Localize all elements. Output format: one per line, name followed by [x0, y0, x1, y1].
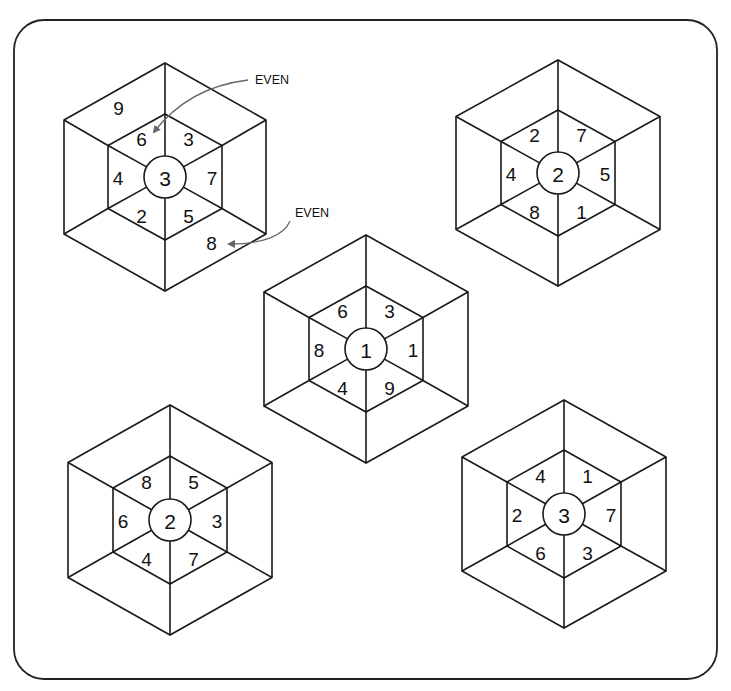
connector-line	[621, 457, 666, 482]
hub-value: 3	[558, 504, 570, 527]
segment-value-top-right: 5	[188, 472, 199, 493]
segment-value-bottom-left: 6	[535, 543, 546, 564]
hub-value: 3	[159, 167, 171, 190]
connector-line	[64, 209, 108, 235]
connector-line	[423, 292, 468, 318]
segment-value-bottom-right: 7	[188, 549, 199, 570]
hub-value: 1	[360, 339, 372, 362]
connector-line	[621, 546, 666, 571]
connector-line	[462, 457, 507, 482]
segment-value-top-left: 2	[529, 125, 540, 146]
segment-value-bottom-left: 4	[141, 549, 152, 570]
hexagon-bottom-left: 2853746	[68, 405, 272, 635]
segment-value-top-right: 7	[576, 125, 587, 146]
hexagon-top-right: 2275184	[456, 60, 660, 286]
segment-value-left: 4	[113, 168, 124, 189]
segment-value-left: 6	[118, 511, 129, 532]
segment-value-right: 5	[600, 164, 611, 185]
connector-line	[423, 381, 468, 407]
outer-value-top-left: 9	[113, 98, 124, 119]
segment-value-top-right: 1	[582, 466, 593, 487]
connector-line	[615, 117, 660, 142]
hub-value: 2	[552, 163, 564, 186]
even-label: EVEN	[295, 206, 329, 220]
segment-value-left: 2	[512, 505, 523, 526]
annotation-group: EVENEVEN	[154, 73, 329, 244]
segment-value-top-left: 6	[136, 129, 147, 150]
hexagon-bottom-right: 3417362	[462, 400, 666, 628]
segment-value-right: 3	[212, 511, 223, 532]
connector-line	[222, 209, 266, 235]
even-label: EVEN	[255, 73, 289, 87]
hexagon-group: 3637524982275184163194828537463417362	[64, 60, 666, 635]
connector-line	[227, 552, 272, 578]
segment-value-right: 7	[207, 168, 218, 189]
connector-line	[68, 463, 113, 489]
connector-line	[222, 120, 266, 146]
puzzle-diagram: 3637524982275184163194828537463417362 EV…	[0, 0, 731, 691]
segment-value-bottom-right: 1	[576, 202, 587, 223]
segment-value-top-right: 3	[183, 129, 194, 150]
segment-value-left: 8	[314, 340, 325, 361]
segment-value-bottom-left: 8	[529, 202, 540, 223]
hexagon-top-left: 363752498	[64, 63, 266, 291]
outer-value-bottom-right: 8	[206, 233, 217, 254]
connector-line	[64, 120, 108, 146]
segment-value-top-right: 3	[384, 301, 395, 322]
segment-value-right: 7	[606, 505, 617, 526]
connector-line	[68, 552, 113, 578]
segment-value-bottom-left: 4	[337, 378, 348, 399]
segment-value-bottom-right: 3	[582, 543, 593, 564]
annotation-arrow	[229, 221, 290, 244]
connector-line	[456, 117, 501, 142]
annotation-arrow	[154, 80, 248, 132]
connector-line	[462, 546, 507, 571]
segment-value-top-left: 8	[141, 472, 152, 493]
connector-line	[227, 463, 272, 489]
segment-value-bottom-right: 5	[183, 206, 194, 227]
connector-line	[264, 381, 309, 407]
connector-line	[264, 292, 309, 318]
segment-value-bottom-left: 2	[136, 206, 147, 227]
segment-value-right: 1	[408, 340, 419, 361]
segment-value-top-left: 4	[535, 466, 546, 487]
hexagon-center: 1631948	[264, 235, 468, 463]
segment-value-bottom-right: 9	[384, 378, 395, 399]
segment-value-left: 4	[506, 164, 517, 185]
connector-line	[456, 205, 501, 230]
hub-value: 2	[164, 510, 176, 533]
connector-line	[615, 205, 660, 230]
segment-value-top-left: 6	[337, 301, 348, 322]
